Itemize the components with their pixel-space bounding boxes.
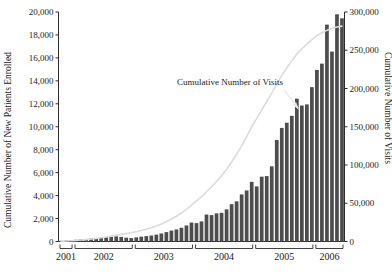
cumulative-visits-line bbox=[61, 26, 342, 241]
bar bbox=[285, 123, 289, 242]
bar bbox=[119, 237, 123, 242]
y-tick-label-left: 2,000 bbox=[33, 214, 54, 224]
chart-container: Cumulative Number of New Patients Enroll… bbox=[0, 0, 392, 278]
bar bbox=[270, 166, 274, 241]
x-axis-labels: 200120022003200420052006 bbox=[56, 251, 339, 262]
bar bbox=[275, 140, 279, 242]
y-tick-label-right: 150,000 bbox=[350, 122, 380, 132]
bar bbox=[160, 233, 164, 241]
bar bbox=[200, 221, 204, 241]
bar bbox=[195, 223, 199, 241]
y-tick-label-right: 0 bbox=[350, 237, 355, 247]
bar bbox=[185, 225, 189, 241]
cumulative-enrollment-visits-chart: Cumulative Number of New Patients Enroll… bbox=[0, 0, 392, 278]
bar bbox=[330, 52, 334, 242]
bar bbox=[175, 229, 179, 241]
y-tick-label-right: 200,000 bbox=[350, 84, 380, 94]
bar bbox=[255, 186, 259, 241]
x-group-bracket bbox=[135, 245, 192, 249]
y-tick-label-left: 0 bbox=[49, 237, 54, 247]
bar bbox=[215, 213, 219, 241]
bar bbox=[265, 176, 269, 241]
bar bbox=[165, 232, 169, 241]
bar bbox=[139, 237, 143, 242]
bar bbox=[109, 237, 113, 242]
y-tick-label-left: 4,000 bbox=[33, 191, 54, 201]
visits-annotation-label: Cumulative Number of Visits bbox=[177, 77, 284, 87]
bar bbox=[114, 236, 118, 241]
x-axis-tick-label: 2004 bbox=[214, 251, 234, 262]
x-group-bracket bbox=[75, 245, 132, 249]
bar bbox=[325, 25, 329, 242]
bar bbox=[320, 64, 324, 242]
x-group-bracket bbox=[256, 245, 313, 249]
x-group-bracket bbox=[195, 245, 252, 249]
bar bbox=[260, 177, 264, 242]
bar bbox=[144, 236, 148, 241]
bar bbox=[240, 194, 244, 241]
bar bbox=[180, 228, 184, 242]
y-tick-label-right: 250,000 bbox=[350, 45, 380, 55]
y-axis-left-ticks: 02,0004,0006,0008,00010,00012,00014,0001… bbox=[29, 7, 59, 247]
bar bbox=[315, 70, 319, 242]
y-tick-label-left: 14,000 bbox=[29, 76, 54, 86]
x-group-bracket bbox=[60, 245, 72, 249]
y-tick-label-right: 50,000 bbox=[350, 198, 375, 208]
bar bbox=[295, 99, 299, 242]
y-axis-left-title: Cumulative Number of New Patients Enroll… bbox=[3, 52, 13, 228]
bar bbox=[305, 104, 309, 241]
bar bbox=[129, 238, 133, 241]
y-tick-label-left: 6,000 bbox=[33, 168, 54, 178]
bar bbox=[225, 209, 229, 241]
bar bbox=[235, 201, 239, 241]
bar bbox=[149, 236, 153, 242]
y-tick-label-right: 100,000 bbox=[350, 160, 380, 170]
bar bbox=[245, 190, 249, 241]
bar bbox=[335, 14, 339, 241]
y-tick-label-left: 16,000 bbox=[29, 53, 54, 63]
bar bbox=[170, 231, 174, 242]
y-axis-right-ticks: 050,000100,000150,000200,000250,000300,0… bbox=[345, 7, 380, 247]
x-axis-brackets bbox=[60, 245, 343, 249]
y-tick-label-right: 300,000 bbox=[350, 7, 380, 17]
y-tick-label-left: 12,000 bbox=[29, 99, 54, 109]
bar bbox=[124, 238, 128, 242]
bar bbox=[280, 128, 284, 242]
bar bbox=[134, 237, 138, 241]
x-axis-tick-label: 2001 bbox=[56, 251, 76, 262]
x-axis-tick-label: 2006 bbox=[319, 251, 339, 262]
y-tick-label-left: 8,000 bbox=[33, 145, 54, 155]
y-tick-label-left: 10,000 bbox=[29, 122, 54, 132]
bar bbox=[310, 87, 314, 241]
bar bbox=[190, 223, 194, 242]
x-axis-tick-label: 2003 bbox=[154, 251, 174, 262]
bar bbox=[230, 204, 234, 241]
bar bbox=[210, 215, 214, 241]
y-tick-label-left: 18,000 bbox=[29, 30, 54, 40]
x-axis-tick-label: 2002 bbox=[94, 251, 114, 262]
x-group-bracket bbox=[316, 245, 343, 249]
bar bbox=[220, 213, 224, 242]
bar bbox=[250, 182, 254, 242]
x-axis-tick-label: 2005 bbox=[274, 251, 294, 262]
bar bbox=[300, 106, 304, 242]
bar bbox=[205, 215, 209, 242]
bar bbox=[154, 235, 158, 242]
bar bbox=[290, 116, 294, 242]
y-axis-right-title: Cumulative Number of Visits bbox=[383, 52, 392, 164]
y-tick-label-left: 20,000 bbox=[29, 7, 54, 17]
bar bbox=[340, 18, 344, 241]
